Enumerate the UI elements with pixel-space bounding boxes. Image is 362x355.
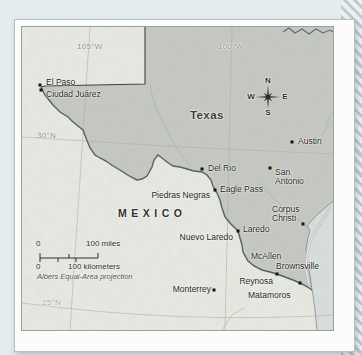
city-label-del-rio: Del Rio [208,164,236,173]
city-marker-ciudad-juarez [40,89,43,92]
city-marker-del-rio [201,168,204,171]
city-label-austin: Austin [298,137,322,146]
city-label-laredo: Laredo [243,225,269,234]
city-label-ciudad-juarez: Ciudad Juárez [46,90,101,99]
map-frame: 105°W 100°W 30°N 25°N Texas MEXICO N E S… [14,19,355,352]
page-background: 105°W 100°W 30°N 25°N Texas MEXICO N E S… [0,0,362,355]
city-label-matamoros: Matamoros [248,291,291,300]
city-marker-laredo [237,230,240,233]
city-label-san-antonio: San Antonio [275,168,315,186]
city-label-el-paso: El Paso [46,78,75,87]
city-marker-eagle-pass [214,189,217,192]
texas-label: Texas [190,109,224,121]
city-marker-el-paso [39,84,42,87]
projection-note: Albers Equal-Area projection [37,273,132,281]
graticule-label-100w: 100°W [218,43,244,52]
city-marker-san-antonio [269,167,272,170]
mexico-label: MEXICO [118,208,186,219]
city-label-corpus-christi: Corpus Christi [272,205,308,223]
scale-miles-max: 100 miles [86,240,120,249]
compass-north-label: N [265,77,271,86]
scale-km-zero: 0 [36,263,40,272]
compass-east-label: E [282,93,287,102]
city-marker-brownsville-matamoros [299,282,302,285]
city-label-monterrey: Monterrey [173,285,211,294]
city-marker-monterrey [213,289,216,292]
city-marker-austin [291,141,294,144]
graticule-label-30n: 30°N [37,132,56,141]
scale-km-max: 100 kilometers [68,263,120,272]
compass-south-label: S [265,109,270,118]
border-region-map: 105°W 100°W 30°N 25°N Texas MEXICO N E S… [22,27,333,330]
city-label-brownsville: Brownsville [276,262,319,271]
city-label-eagle-pass: Eagle Pass [220,185,263,194]
city-marker-mcallen-reynosa [276,273,279,276]
city-label-reynosa: Reynosa [239,277,273,286]
graticule-label-25n: 25°N [42,299,61,308]
city-label-nuevo-laredo: Nuevo Laredo [180,233,233,242]
city-label-piedras-negras: Piedras Negras [151,191,210,200]
graticule-label-105w: 105°W [77,43,103,52]
compass-west-label: W [247,93,255,102]
city-label-mcallen: McAllen [251,252,281,261]
scale-miles-zero: 0 [36,240,40,249]
